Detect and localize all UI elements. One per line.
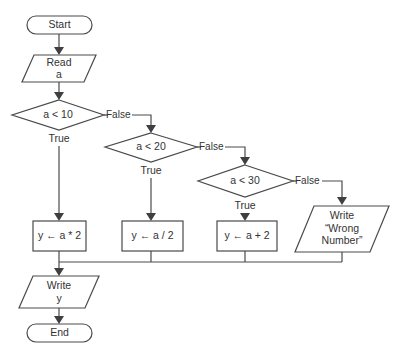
- arrow-head-icon: [54, 92, 64, 100]
- arrow-head-icon: [146, 125, 156, 133]
- end-node: End: [27, 324, 92, 342]
- arrow-head-icon: [54, 316, 64, 324]
- flowchart-canvas: Start Read a a < 10 False True a < 20 Fa…: [0, 0, 399, 352]
- decision-a-lt-20-label: a < 20: [136, 140, 166, 152]
- decision-a-lt-30: a < 30: [198, 165, 293, 197]
- connector-cond1-false: [132, 115, 151, 126]
- arrow-head-icon: [54, 47, 64, 55]
- decision-a-lt-30-label: a < 30: [230, 174, 260, 186]
- cond2-false-label: False: [199, 141, 224, 152]
- connector-cond2-false: [225, 147, 245, 158]
- process-y-a-plus-2: y ← a + 2: [217, 221, 277, 251]
- decision-a-lt-20: a < 20: [105, 133, 197, 162]
- write-y-line2: y: [56, 292, 62, 304]
- process-y-a-times-2: y ← a * 2: [33, 221, 86, 251]
- cond3-false-label: False: [295, 175, 320, 186]
- process-y-a-plus-2-label: y ← a + 2: [224, 229, 269, 241]
- write-y-node: Write y: [19, 276, 99, 308]
- end-label: End: [50, 326, 69, 338]
- arrow-head-icon: [146, 213, 156, 221]
- read-label-line2: a: [56, 68, 62, 80]
- arrow-head-icon: [337, 197, 347, 205]
- write-y-line1: Write: [47, 279, 71, 291]
- decision-a-lt-10-label: a < 10: [43, 108, 73, 120]
- process-y-a-div-2: y ← a / 2: [122, 221, 183, 251]
- read-label-line1: Read: [46, 56, 71, 68]
- start-label: Start: [48, 18, 70, 30]
- cond1-true-label: True: [48, 132, 69, 144]
- arrow-head-icon: [240, 213, 250, 221]
- arrow-head-icon: [54, 213, 64, 221]
- write-err-line3: Number”: [322, 234, 363, 246]
- start-node: Start: [27, 16, 92, 34]
- process-y-a-div-2-label: y ← a / 2: [131, 229, 173, 241]
- process-y-a-times-2-label: y ← a * 2: [38, 229, 81, 241]
- write-wrong-number-node: Write “Wrong Number”: [295, 206, 389, 252]
- arrow-head-icon: [54, 268, 64, 276]
- write-err-line2: “Wrong: [325, 222, 359, 234]
- cond2-true-label: True: [140, 164, 161, 176]
- write-err-line1: Write: [330, 209, 354, 221]
- read-input-node: Read a: [22, 55, 96, 82]
- connector-cond3-false: [322, 181, 342, 198]
- decision-a-lt-10: a < 10: [12, 100, 104, 130]
- cond3-true-label: True: [234, 199, 255, 211]
- cond1-false-label: False: [106, 109, 131, 120]
- arrow-head-icon: [240, 157, 250, 165]
